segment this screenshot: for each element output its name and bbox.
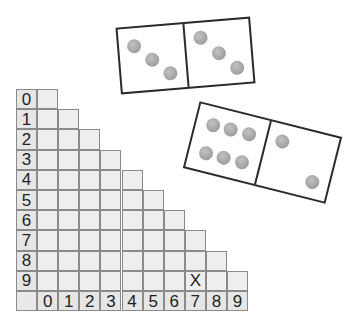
row-label: 0: [16, 89, 37, 109]
grid-cell[interactable]: [58, 271, 79, 291]
pip: [229, 60, 244, 75]
grid-cell[interactable]: [58, 170, 79, 190]
col-label: 5: [143, 291, 164, 311]
col-label: 7: [185, 291, 206, 311]
grid-cell[interactable]: [185, 251, 206, 271]
domino-half-left: [118, 24, 187, 92]
grid-cell[interactable]: [143, 210, 164, 230]
grid-cell[interactable]: [37, 190, 58, 210]
grid-cell[interactable]: [58, 109, 79, 129]
col-label: 4: [122, 291, 143, 311]
grid-cell[interactable]: [58, 210, 79, 230]
grid-cell[interactable]: [37, 109, 58, 129]
grid-corner: [16, 291, 37, 311]
grid-cell[interactable]: [122, 190, 143, 210]
grid-cell[interactable]: [79, 271, 100, 291]
pip: [198, 145, 215, 162]
grid-cell[interactable]: [100, 170, 121, 190]
pip: [215, 149, 232, 166]
grid-cell[interactable]: [100, 251, 121, 271]
grid-cell[interactable]: [37, 271, 58, 291]
pip: [145, 52, 160, 67]
grid-cell[interactable]: [37, 129, 58, 149]
grid-cell[interactable]: [37, 150, 58, 170]
grid-cell[interactable]: [37, 251, 58, 271]
domino-three-three: [115, 17, 255, 95]
grid-cell[interactable]: [206, 271, 227, 291]
col-label: 1: [58, 291, 79, 311]
grid-cell[interactable]: [100, 271, 121, 291]
pip: [193, 30, 208, 45]
row-label: 3: [16, 150, 37, 170]
grid-cell[interactable]: [100, 210, 121, 230]
grid-cell[interactable]: [79, 150, 100, 170]
pip: [240, 126, 257, 143]
grid-cell[interactable]: [143, 190, 164, 210]
grid-cell[interactable]: [164, 210, 185, 230]
grid-cell[interactable]: [58, 129, 79, 149]
grid-cell[interactable]: [164, 251, 185, 271]
grid-cell[interactable]: [37, 89, 58, 109]
grid-cell[interactable]: [143, 230, 164, 250]
pip: [274, 133, 291, 150]
row-label: 4: [16, 170, 37, 190]
grid-cell[interactable]: [79, 210, 100, 230]
grid-cell[interactable]: [122, 271, 143, 291]
grid-cell[interactable]: [58, 230, 79, 250]
grid-cell[interactable]: [164, 271, 185, 291]
grid-cell[interactable]: [100, 150, 121, 170]
grid-cell[interactable]: [100, 190, 121, 210]
grid-cell[interactable]: [79, 170, 100, 190]
domino-half-right: [254, 121, 340, 202]
pip: [127, 38, 142, 53]
grid-cell[interactable]: [122, 210, 143, 230]
pip: [205, 117, 222, 134]
grid-cell[interactable]: [143, 251, 164, 271]
grid-cell[interactable]: [58, 190, 79, 210]
grid-cell[interactable]: [122, 230, 143, 250]
grid-cell[interactable]: [79, 190, 100, 210]
pip: [222, 121, 239, 138]
row-label: 7: [16, 230, 37, 250]
grid-cell[interactable]: [58, 251, 79, 271]
grid-cell[interactable]: [58, 150, 79, 170]
col-label: 3: [100, 291, 121, 311]
grid-cell[interactable]: [79, 251, 100, 271]
col-label: 0: [37, 291, 58, 311]
grid-cell[interactable]: [100, 230, 121, 250]
grid-cell[interactable]: [206, 251, 227, 271]
pip: [304, 174, 321, 191]
grid-cell[interactable]: [37, 230, 58, 250]
col-label: 2: [79, 291, 100, 311]
col-label: 6: [164, 291, 185, 311]
col-label: 8: [206, 291, 227, 311]
grid-cell[interactable]: [227, 271, 248, 291]
domino-half-right: [182, 19, 253, 87]
grid-cell[interactable]: [79, 129, 100, 149]
grid-cell[interactable]: [164, 230, 185, 250]
row-label: 9: [16, 271, 37, 291]
grid-cell[interactable]: [122, 251, 143, 271]
grid-cell[interactable]: [185, 230, 206, 250]
grid-cell[interactable]: [79, 230, 100, 250]
grid-cell[interactable]: [143, 271, 164, 291]
pip: [163, 66, 178, 81]
pip: [211, 45, 226, 60]
row-label: 6: [16, 210, 37, 230]
grid-cell[interactable]: [122, 170, 143, 190]
domino-six-two: [183, 101, 342, 204]
row-label: 1: [16, 109, 37, 129]
pip: [233, 154, 250, 171]
row-label: 8: [16, 251, 37, 271]
grid-cell[interactable]: [37, 170, 58, 190]
row-label: 5: [16, 190, 37, 210]
grid-cell-marked[interactable]: X: [185, 271, 206, 291]
col-label: 9: [227, 291, 248, 311]
row-label: 2: [16, 129, 37, 149]
grid-cell[interactable]: [37, 210, 58, 230]
